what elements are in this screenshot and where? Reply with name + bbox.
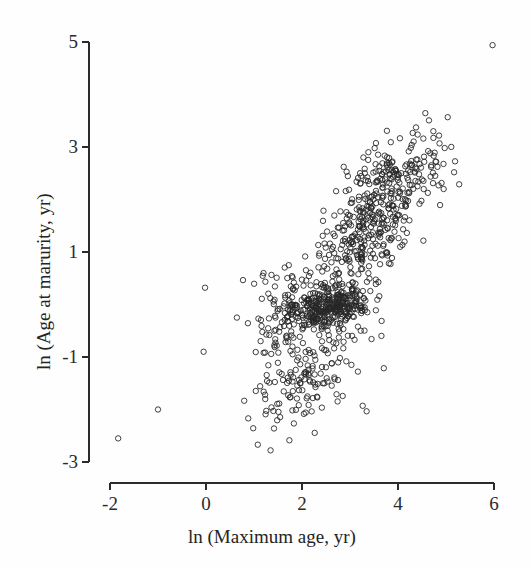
y-axis-title: ln (Age at marurity, yr) xyxy=(34,193,53,370)
axis-lines xyxy=(82,42,494,490)
x-tick-label: 2 xyxy=(272,494,332,513)
plot-canvas xyxy=(0,0,530,568)
y-tick-label: 5 xyxy=(0,32,78,51)
x-tick-label: -2 xyxy=(80,494,140,513)
x-tick-label: 6 xyxy=(464,494,524,513)
x-axis-title: ln (Maximum age, yr) xyxy=(188,527,356,546)
x-tick-label: 4 xyxy=(368,494,428,513)
scatter-plot-figure: 5 3 1 -1 -3 -2 0 2 4 6 ln (Age at maruri… xyxy=(0,0,530,568)
y-tick-label: -3 xyxy=(0,452,78,471)
x-tick-label: 0 xyxy=(176,494,236,513)
data-points-layer xyxy=(115,42,495,453)
y-tick-label: 3 xyxy=(0,137,78,156)
